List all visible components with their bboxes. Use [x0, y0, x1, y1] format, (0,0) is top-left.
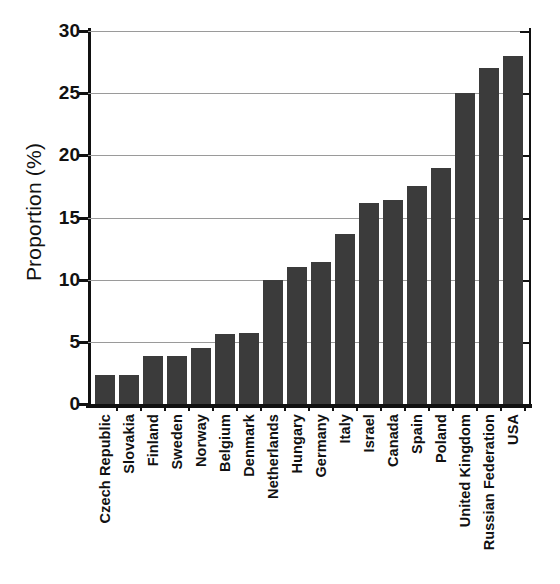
- x-axis-tick-label: Czech Republic: [97, 414, 113, 523]
- bar[interactable]: [167, 356, 187, 404]
- bar[interactable]: [119, 375, 139, 404]
- bar-slot: [429, 31, 453, 404]
- x-axis-tick: [452, 404, 454, 411]
- x-axis-tick-label: Israel: [361, 414, 377, 453]
- x-label-slot: USA: [501, 412, 525, 582]
- x-label-slot: Norway: [189, 412, 213, 582]
- y-axis-tick-label: 0: [40, 393, 80, 415]
- bar-slot: [285, 31, 309, 404]
- y-axis-tick: [79, 217, 88, 220]
- bar[interactable]: [263, 280, 283, 404]
- y-axis-tick-label: 10: [40, 269, 80, 291]
- bar-slot: [213, 31, 237, 404]
- bar[interactable]: [335, 234, 355, 404]
- x-axis-tick: [356, 404, 358, 411]
- bar[interactable]: [503, 56, 523, 404]
- bar-slot: [189, 31, 213, 404]
- x-label-slot: Poland: [429, 412, 453, 582]
- bar[interactable]: [287, 267, 307, 404]
- bar-slot: [165, 31, 189, 404]
- bar-slot: [141, 31, 165, 404]
- bar-slot: [93, 31, 117, 404]
- bar[interactable]: [215, 334, 235, 404]
- x-axis-tick-label: Finland: [145, 414, 161, 466]
- x-axis-tick-label: Hungary: [289, 414, 305, 474]
- x-axis-tick-labels: Czech RepublicSlovakiaFinlandSwedenNorwa…: [88, 412, 530, 582]
- x-axis-tick-label: Spain: [409, 414, 425, 454]
- x-label-slot: Czech Republic: [93, 412, 117, 582]
- x-label-slot: Netherlands: [261, 412, 285, 582]
- x-label-slot: Italy: [333, 412, 357, 582]
- bar-slot: [381, 31, 405, 404]
- bar[interactable]: [431, 168, 451, 404]
- x-axis-tick-label: United Kingdom: [457, 414, 473, 527]
- x-label-slot: Russian Federation: [477, 412, 501, 582]
- x-axis-tick: [428, 404, 430, 411]
- x-axis-tick-label: Slovakia: [121, 414, 137, 474]
- bar-series: [88, 31, 530, 404]
- x-axis-tick: [404, 404, 406, 411]
- x-axis-tick: [236, 404, 238, 411]
- bar[interactable]: [407, 186, 427, 404]
- x-axis-tick-label: Poland: [433, 414, 449, 463]
- x-axis-tick-label: Norway: [193, 414, 209, 467]
- bar-slot: [501, 31, 525, 404]
- y-axis-tick: [79, 92, 88, 95]
- x-axis-tick: [116, 404, 118, 411]
- y-axis-tick: [79, 30, 88, 33]
- y-axis-tick-label: 15: [40, 207, 80, 229]
- bar-slot: [477, 31, 501, 404]
- bar[interactable]: [455, 93, 475, 404]
- x-axis-tick: [284, 404, 286, 411]
- x-label-slot: Slovakia: [117, 412, 141, 582]
- x-axis-tick: [164, 404, 166, 411]
- bar-slot: [357, 31, 381, 404]
- y-axis-tick: [79, 279, 88, 282]
- bar[interactable]: [191, 348, 211, 404]
- y-axis-tick: [79, 403, 88, 406]
- y-axis-tick-label: 25: [40, 82, 80, 104]
- bar[interactable]: [143, 356, 163, 404]
- bar-slot: [333, 31, 357, 404]
- bar[interactable]: [239, 333, 259, 404]
- y-axis-tick-label: 5: [40, 331, 80, 353]
- x-axis-tick-label: Germany: [313, 414, 329, 478]
- x-axis-tick-label: Russian Federation: [481, 414, 497, 550]
- x-label-slot: Germany: [309, 412, 333, 582]
- x-label-slot: Israel: [357, 412, 381, 582]
- bar-slot: [309, 31, 333, 404]
- bar-chart: Proportion (%) 051015202530 Czech Republ…: [0, 0, 560, 584]
- x-axis-tick-label: Sweden: [169, 414, 185, 469]
- bar[interactable]: [383, 200, 403, 404]
- x-axis-tick: [308, 404, 310, 411]
- bar[interactable]: [359, 203, 379, 404]
- x-axis-tick: [380, 404, 382, 411]
- y-axis-tick: [79, 154, 88, 157]
- x-axis-tick: [188, 404, 190, 411]
- bar-slot: [237, 31, 261, 404]
- bar[interactable]: [311, 262, 331, 404]
- bar-slot: [405, 31, 429, 404]
- x-axis-tick: [140, 404, 142, 411]
- bar[interactable]: [479, 68, 499, 404]
- x-label-slot: Finland: [141, 412, 165, 582]
- x-label-slot: United Kingdom: [453, 412, 477, 582]
- y-axis-tick-label: 30: [40, 20, 80, 42]
- x-label-slot: Hungary: [285, 412, 309, 582]
- x-axis-tick-label: USA: [505, 414, 521, 445]
- bar[interactable]: [95, 375, 115, 404]
- x-axis-tick: [212, 404, 214, 411]
- x-label-slot: Sweden: [165, 412, 189, 582]
- x-label-slot: Spain: [405, 412, 429, 582]
- x-axis-tick: [476, 404, 478, 411]
- bar-slot: [453, 31, 477, 404]
- x-axis-tick-label: Netherlands: [265, 414, 281, 499]
- bar-slot: [261, 31, 285, 404]
- x-label-slot: Canada: [381, 412, 405, 582]
- x-axis-tick-label: Italy: [337, 414, 353, 444]
- x-axis-tick: [332, 404, 334, 411]
- y-axis-tick-label: 20: [40, 144, 80, 166]
- y-axis-tick: [79, 341, 88, 344]
- x-axis-tick: [500, 404, 502, 411]
- x-axis-tick: [260, 404, 262, 411]
